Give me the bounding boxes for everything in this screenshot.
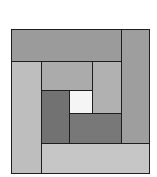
inner-right-strip [92,61,122,114]
right-strip [121,29,150,144]
quilt-block [11,29,150,174]
bottom-strip [41,143,150,174]
inner-bottom-strip [69,113,122,144]
inner-top-strip [41,61,93,91]
center-square [69,90,93,114]
inner-left-strip [41,90,70,144]
top-strip [11,29,122,62]
left-strip [11,61,42,174]
